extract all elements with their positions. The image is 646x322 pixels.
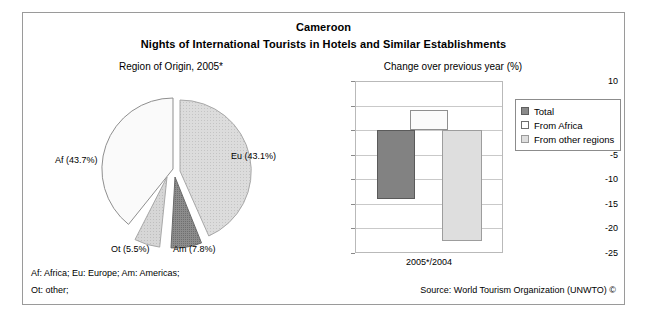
legend-swatch-total — [521, 107, 529, 115]
figure-frame: Cameroon Nights of International Tourist… — [22, 12, 625, 305]
ytick-label-neg20: -20 — [590, 223, 618, 233]
legend-item-from-other-regions: From other regions — [521, 132, 614, 146]
page-title: Cameroon — [23, 21, 624, 33]
ytick-label-neg15: -15 — [590, 199, 618, 209]
xaxis-tick-label: 2005*/2004 — [355, 257, 503, 267]
legend-label-total: Total — [534, 106, 554, 117]
legend-swatch-from-other-regions — [521, 135, 529, 143]
bar-from-africa — [410, 110, 448, 130]
legend-item-from-africa: From Africa — [521, 118, 614, 132]
ytick-label-10: 10 — [590, 76, 618, 86]
pie-label-am: Am (7.8%) — [173, 244, 216, 254]
source-note: Source: World Tourism Organization (UNWT… — [420, 285, 616, 295]
pie-label-af: Af (43.7%) — [55, 155, 98, 165]
pie-label-ot: Ot (5.5%) — [111, 244, 150, 254]
pie-label-eu: Eu (43.1%) — [231, 151, 276, 161]
pie-chart-title: Region of Origin, 2005* — [41, 61, 301, 72]
bar-chart-title: Change over previous year (%) — [323, 61, 583, 72]
legend-item-total: Total — [521, 104, 614, 118]
bar-total — [377, 130, 415, 199]
legend-label-from-other-regions: From other regions — [534, 134, 614, 145]
bar-plot-area — [355, 81, 503, 253]
bar-chart: 10 5 0 -5 -10 -15 -20 -25 — [323, 75, 618, 275]
ytick-label-neg10: -10 — [590, 174, 618, 184]
bar-from-other-regions — [442, 130, 482, 241]
bar-chart-legend: Total From Africa From other regions — [515, 99, 621, 151]
legend-label-from-africa: From Africa — [534, 120, 583, 131]
footnote-abbreviations-line2: Ot: other; — [31, 285, 69, 295]
ytick-mark-neg25 — [351, 253, 355, 254]
pie-chart-svg — [33, 81, 323, 266]
pie-chart: Af (43.7%) Eu (43.1%) Ot (5.5%) Am (7.8%… — [33, 81, 323, 266]
legend-swatch-from-africa — [521, 121, 529, 129]
footnote-abbreviations-line1: Af: Africa; Eu: Europe; Am: Americas; — [31, 268, 180, 278]
ytick-label-neg25: -25 — [590, 248, 618, 258]
gridline-5 — [356, 106, 502, 107]
page-subtitle: Nights of International Tourists in Hote… — [23, 38, 624, 50]
ytick-label-neg5: -5 — [590, 150, 618, 160]
